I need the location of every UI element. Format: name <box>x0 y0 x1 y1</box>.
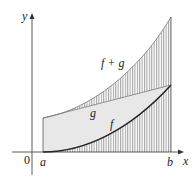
f-plus-g-label: f + g <box>101 56 124 70</box>
point-b-label: b <box>167 155 173 169</box>
area-sum-diagram: y x 0 a b f + g g f <box>0 0 193 180</box>
g-label: g <box>90 106 96 120</box>
y-axis-arrow-icon <box>30 13 35 19</box>
y-axis-label: y <box>21 9 28 23</box>
x-axis-label: x <box>182 154 189 168</box>
point-a-label: a <box>40 155 46 169</box>
diagram-root: y x 0 a b f + g g f <box>0 0 193 180</box>
origin-label: 0 <box>24 153 30 167</box>
